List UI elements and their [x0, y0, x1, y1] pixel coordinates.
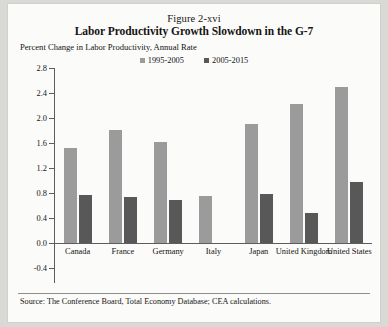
figure-page: Figure 2-xvi Labor Productivity Growth S…	[8, 4, 380, 322]
legend-label-2005-2015: 2005-2015	[212, 56, 248, 65]
source-note: Source: The Conference Board, Total Econ…	[20, 297, 271, 306]
y-tick-label-0.4: 0.4	[7, 218, 47, 219]
bar-japan-1995-2005	[245, 124, 258, 243]
y-tick-label-0.0: 0.0	[7, 243, 47, 244]
chart-legend: 1995-2005 2005-2015	[8, 56, 380, 65]
bar-group	[146, 142, 191, 243]
y-tick-label-0.8: 0.8	[7, 193, 47, 194]
y-tick-1.2	[49, 168, 54, 169]
y-tick-label-2.0: 2.0	[7, 118, 47, 119]
bar-united-kingdom-1995-2005	[290, 104, 303, 243]
y-tick-0.4	[49, 218, 54, 219]
footer-divider	[18, 293, 370, 294]
bar-united-states-2005-2015	[350, 182, 363, 243]
bar-group	[281, 104, 326, 243]
y-tick-2.0	[49, 118, 54, 119]
y-tick-label-2.8: 2.8	[7, 68, 47, 69]
bar-group	[191, 196, 236, 243]
bar-group	[55, 148, 100, 243]
legend-label-1995-2005: 1995-2005	[148, 56, 184, 65]
bar-canada-1995-2005	[64, 148, 77, 243]
y-tick-label-1.6: 1.6	[7, 143, 47, 144]
bar-italy-1995-2005	[199, 196, 212, 243]
y-tick-label-1.2: 1.2	[7, 168, 47, 169]
y-tick-2.8	[49, 68, 54, 69]
figure-number: Figure 2-xvi	[8, 13, 380, 24]
y-tick-label--0.4: -0.4	[7, 268, 47, 269]
y-tick-2.4	[49, 93, 54, 94]
bar-japan-2005-2015	[260, 194, 273, 243]
x-axis-label-united-states: United States	[319, 247, 379, 257]
y-tick-label-2.4: 2.4	[7, 93, 47, 94]
bar-group	[236, 124, 281, 243]
bar-france-2005-2015	[124, 197, 137, 243]
bar-united-kingdom-2005-2015	[305, 213, 318, 243]
legend-item-1995-2005: 1995-2005	[140, 56, 184, 65]
chart-subtitle: Percent Change in Labor Productivity, An…	[20, 42, 380, 52]
y-tick-1.6	[49, 143, 54, 144]
legend-swatch-icon-1995-2005	[140, 58, 145, 63]
bar-germany-2005-2015	[169, 200, 182, 243]
bar-france-1995-2005	[109, 130, 122, 243]
y-tick--0.4	[49, 268, 54, 269]
bar-germany-1995-2005	[154, 142, 167, 243]
bar-group	[327, 87, 372, 243]
y-tick-0.8	[49, 193, 54, 194]
legend-swatch-icon-2005-2015	[204, 58, 209, 63]
bar-united-states-1995-2005	[335, 87, 348, 243]
legend-item-2005-2015: 2005-2015	[204, 56, 248, 65]
bar-canada-2005-2015	[79, 195, 92, 243]
chart-plot-area: 1995-2005 2005-2015 2.82.42.01.61.20.80.…	[8, 54, 380, 276]
figure-title: Labor Productivity Growth Slowdown in th…	[8, 25, 380, 37]
bar-group	[100, 130, 145, 243]
